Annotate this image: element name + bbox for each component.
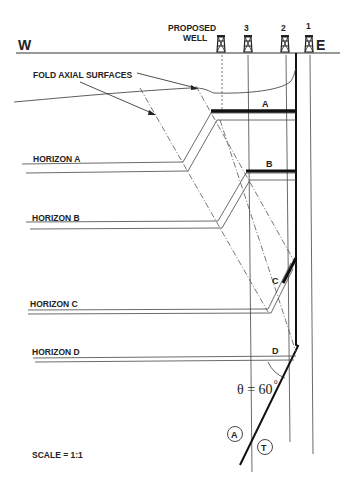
well-2-label: 2 bbox=[281, 23, 286, 33]
angle-degree-superscript: 0 bbox=[274, 378, 278, 386]
marker-b: B bbox=[266, 159, 273, 169]
proposed-well-label: PROPOSED bbox=[168, 23, 216, 33]
well-3-line bbox=[248, 55, 252, 472]
horizon-c-bed bbox=[283, 258, 296, 283]
marker-a: A bbox=[262, 99, 269, 109]
annotation-arrow-2 bbox=[80, 82, 154, 114]
proposed-well-label-2: WELL bbox=[183, 33, 207, 43]
marker-c: C bbox=[272, 276, 279, 286]
annotation-arrow-1 bbox=[137, 73, 196, 88]
scale-label: SCALE = 1:1 bbox=[32, 450, 83, 460]
angle-theta-label: θ = 60 bbox=[237, 382, 273, 397]
circle-label-a-text: A bbox=[231, 430, 238, 440]
well-1-label: 1 bbox=[306, 21, 311, 31]
horizon-a-label: HORIZON A bbox=[33, 154, 80, 164]
horizon-c-label: HORIZON C bbox=[30, 299, 78, 309]
horizon-d-lower bbox=[35, 360, 294, 362]
cross-section-diagram: W E PROPOSED WELL 3 2 1 FOLD AXIAL SURFA… bbox=[0, 0, 356, 487]
derrick-icon bbox=[244, 35, 252, 52]
well-3-label: 3 bbox=[244, 23, 249, 33]
arrowhead-icon bbox=[148, 110, 156, 115]
west-label: W bbox=[18, 37, 32, 53]
angle-arc bbox=[268, 362, 285, 378]
marker-d: D bbox=[272, 346, 279, 356]
well-1-line bbox=[310, 55, 313, 454]
derrick-icon bbox=[281, 35, 289, 52]
east-label: E bbox=[316, 37, 325, 53]
horizon-d-label: HORIZON D bbox=[32, 347, 80, 357]
horizon-a-lower bbox=[26, 120, 296, 173]
derrick-icon bbox=[217, 35, 225, 52]
fold-axial-surface-3 bbox=[220, 120, 296, 352]
horizon-b-label: HORIZON B bbox=[32, 213, 80, 223]
circle-label-t-text: T bbox=[261, 443, 267, 453]
derrick-icon bbox=[305, 35, 313, 52]
fold-axial-surfaces-label: FOLD AXIAL SURFACES bbox=[33, 70, 133, 80]
